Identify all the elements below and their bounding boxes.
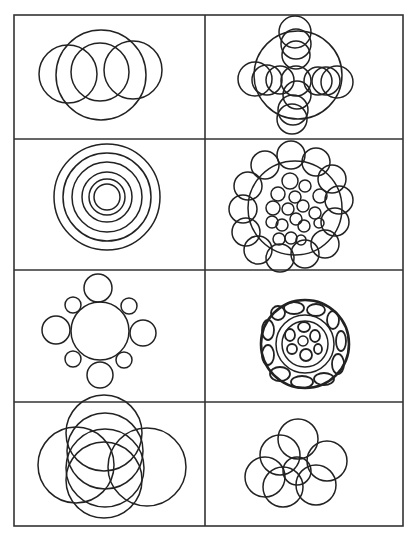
circle-shape bbox=[273, 233, 285, 245]
panel-flower-of-circles bbox=[245, 419, 347, 507]
circle-shape bbox=[116, 352, 132, 368]
oval-shape bbox=[300, 349, 312, 361]
circle-shape bbox=[71, 43, 129, 101]
circle-shape bbox=[307, 441, 347, 481]
oval-shape bbox=[298, 322, 310, 332]
circle-shape bbox=[66, 395, 142, 471]
circle-shape bbox=[94, 184, 120, 210]
oval-shape bbox=[310, 330, 320, 342]
oval-shape bbox=[284, 302, 304, 314]
circle-shape bbox=[54, 144, 160, 250]
panel-overlapping-four-circles bbox=[39, 30, 162, 120]
circle-shape bbox=[84, 274, 112, 302]
panel-rosette-circle bbox=[261, 300, 349, 388]
panel-concentric-circles bbox=[54, 144, 160, 250]
circle-shape bbox=[63, 153, 151, 241]
oval-shape bbox=[307, 304, 325, 316]
circle-shape bbox=[276, 315, 334, 373]
circle-diagram-grid bbox=[0, 0, 419, 539]
circle-shape bbox=[282, 203, 294, 215]
oval-shape bbox=[314, 344, 322, 354]
oval-shape bbox=[327, 311, 339, 329]
panels bbox=[38, 16, 353, 518]
circle-shape bbox=[298, 336, 308, 346]
circle-shape bbox=[314, 218, 324, 228]
circle-shape bbox=[278, 419, 318, 459]
circle-shape bbox=[42, 316, 70, 344]
circle-shape bbox=[285, 232, 297, 244]
circle-shape bbox=[71, 302, 129, 360]
panel-clustered-circles bbox=[229, 141, 353, 272]
oval-shape bbox=[332, 354, 344, 374]
grid-lines bbox=[14, 15, 403, 526]
circle-shape bbox=[266, 201, 280, 215]
oval-shape bbox=[291, 376, 313, 388]
oval-shape bbox=[287, 344, 297, 354]
circle-shape bbox=[282, 173, 298, 189]
oval-shape bbox=[262, 345, 274, 365]
circle-shape bbox=[104, 41, 162, 99]
circle-shape bbox=[87, 362, 113, 388]
circle-shape bbox=[65, 297, 81, 313]
circle-shape bbox=[299, 180, 311, 192]
circle-shape bbox=[304, 67, 332, 95]
circle-shape bbox=[309, 207, 321, 219]
circle-shape bbox=[290, 213, 302, 225]
circle-shape bbox=[266, 66, 294, 94]
circle-shape bbox=[65, 351, 81, 367]
circle-shape bbox=[298, 220, 310, 232]
circle-shape bbox=[38, 427, 114, 503]
panel-overlapping-petals bbox=[38, 395, 186, 518]
oval-shape bbox=[336, 331, 346, 351]
circle-shape bbox=[130, 320, 156, 346]
circle-shape bbox=[121, 298, 137, 314]
circle-shape bbox=[321, 66, 353, 98]
circle-shape bbox=[271, 187, 285, 201]
panel-cross-of-circles bbox=[238, 16, 353, 134]
oval-shape bbox=[285, 329, 295, 341]
circle-shape bbox=[297, 200, 309, 212]
circle-shape bbox=[277, 141, 305, 169]
panel-satellite-circles bbox=[42, 274, 156, 388]
circle-shape bbox=[260, 435, 300, 475]
circle-shape bbox=[296, 465, 336, 505]
circle-shape bbox=[39, 45, 97, 103]
